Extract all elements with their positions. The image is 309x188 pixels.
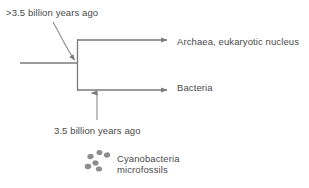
root-age-annotation: >3.5 billion years ago — [6, 7, 98, 18]
branch-label-archaea: Archaea, eukaryotic nucleus — [177, 36, 299, 47]
phylogenetic-tree-diagram: >3.5 billion years ago Archaea, eukaryot… — [0, 0, 309, 188]
cyanobacteria-microfossil-dots — [84, 149, 110, 171]
microfossils-caption-line1: Cyanobacteria — [117, 153, 180, 164]
branch-label-bacteria: Bacteria — [177, 82, 213, 93]
fossil-age-annotation: 3.5 billion years ago — [54, 125, 141, 136]
root-age-pointer-arrow — [53, 22, 75, 60]
microfossils-caption-line2: microfossils — [117, 164, 207, 175]
microfossils-caption: Cyanobacteriamicrofossils — [117, 153, 207, 175]
